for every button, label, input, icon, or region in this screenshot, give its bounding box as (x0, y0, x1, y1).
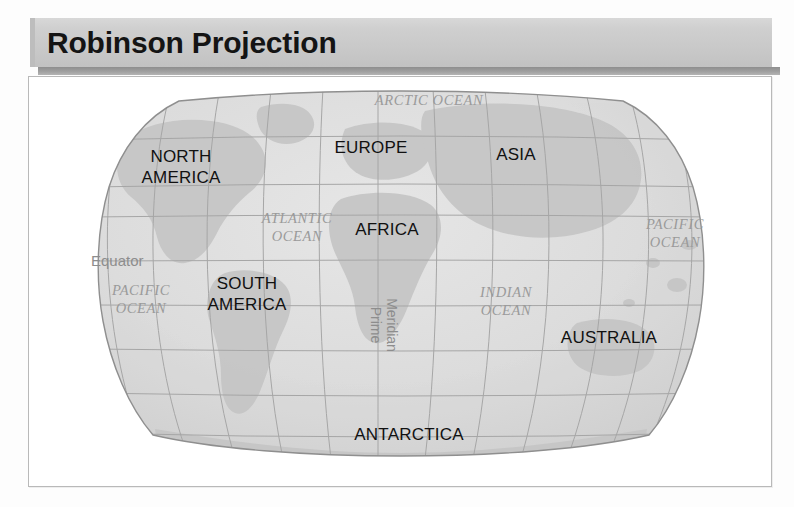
page-background: Robinson Projection (0, 0, 794, 507)
ocean-label-atlantic-line1: ATLANTIC (261, 210, 332, 226)
continent-label-australia: AUSTRALIA (561, 328, 658, 347)
continent-label-south-america-line2: AMERICA (208, 295, 287, 314)
ocean-label-pacific-right-line1: PACIFIC (645, 216, 704, 232)
ocean-label-pacific-left-line2: OCEAN (116, 300, 167, 316)
title-banner-shadow (38, 67, 780, 75)
continent-label-north-america-line2: AMERICA (142, 168, 221, 187)
map-frame: ARCTIC OCEAN ATLANTIC OCEAN PACIFIC OCEA… (28, 76, 772, 487)
equator-label: Equator (91, 252, 144, 269)
page-title: Robinson Projection (47, 28, 337, 58)
ocean-label-arctic: ARCTIC OCEAN (374, 92, 484, 108)
continent-label-north-america-line1: NORTH (150, 147, 211, 166)
continent-label-south-america-line1: SOUTH (217, 274, 278, 293)
ocean-label-pacific-left-line1: PACIFIC (111, 282, 170, 298)
title-banner: Robinson Projection (30, 18, 772, 67)
ocean-label-pacific-right-line2: OCEAN (650, 234, 701, 250)
ocean-label-atlantic-line2: OCEAN (272, 228, 323, 244)
robinson-projection-map: ARCTIC OCEAN ATLANTIC OCEAN PACIFIC OCEA… (29, 77, 773, 488)
continent-label-asia: ASIA (496, 145, 536, 164)
ocean-label-indian-line1: INDIAN (479, 284, 533, 300)
prime-meridian-label-line2: Meridian (384, 298, 400, 352)
prime-meridian-label-line1: Prime (368, 307, 384, 344)
continent-label-antarctica: ANTARCTICA (354, 425, 464, 444)
continent-label-europe: EUROPE (335, 138, 408, 157)
landmass-island-1 (667, 278, 687, 292)
ocean-label-indian-line2: OCEAN (481, 302, 532, 318)
continent-label-africa: AFRICA (355, 220, 419, 239)
